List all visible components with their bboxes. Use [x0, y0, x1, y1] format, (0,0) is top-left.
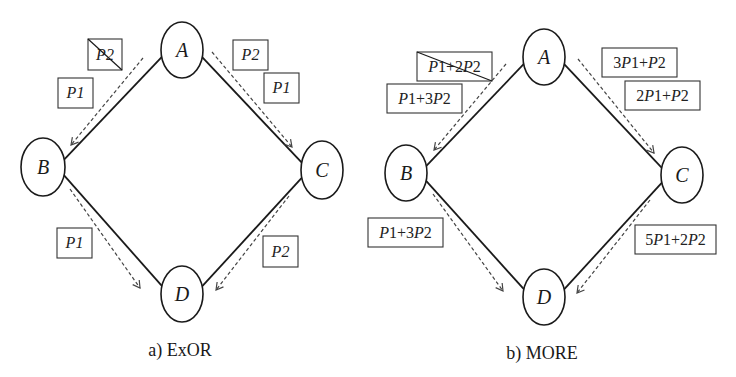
- panel-exor-graphics: [21, 22, 343, 322]
- packet-box: [264, 73, 299, 103]
- node-b: [21, 138, 65, 196]
- panel-more-graphics: [368, 29, 716, 325]
- discarded-packet-box: [417, 52, 492, 81]
- packet-box: [368, 218, 443, 247]
- node-d: [161, 266, 203, 322]
- node-c: [301, 141, 343, 199]
- link-c-d: [198, 173, 307, 291]
- packet-box: [263, 236, 298, 267]
- packet-box: [602, 48, 677, 77]
- node-c: [661, 147, 703, 203]
- packet-box: [57, 228, 92, 258]
- packet-box: [635, 225, 716, 254]
- packet-box: [58, 78, 93, 108]
- discarded-packet-box: [88, 39, 122, 70]
- packet-box: [625, 81, 700, 110]
- node-a: [523, 29, 565, 85]
- node-a: [161, 22, 203, 78]
- node-d: [523, 269, 565, 325]
- node-b: [385, 145, 427, 201]
- packet-box: [387, 84, 462, 113]
- packet-box: [233, 40, 268, 70]
- figure-canvas: [0, 0, 736, 377]
